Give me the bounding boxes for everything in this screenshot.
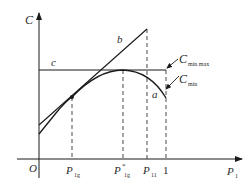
tick-p1g-star: P	[113, 164, 121, 176]
cmin-label: C	[179, 72, 188, 86]
x-axis-label-sub: 1	[235, 173, 238, 179]
line-c-label: c	[51, 56, 56, 68]
tick-one: 1	[163, 164, 169, 176]
y-axis-label: C	[25, 13, 34, 27]
tick-p1g: P	[65, 164, 73, 176]
capacity-diagram: C O c b a C min max C min P 1g P * 1g P …	[0, 0, 251, 187]
tangent-point	[70, 95, 74, 99]
tick-p11: P	[142, 164, 150, 176]
tick-p1g-star-sup: *	[122, 162, 126, 170]
cmin-max-subscript: min max	[188, 61, 209, 67]
arrow-cmin-max	[167, 59, 178, 68]
tick-p11-sub: 11	[151, 172, 157, 178]
tick-p1g-star-sub: 1g	[124, 172, 130, 178]
cmin-subscript: min	[188, 81, 197, 87]
line-b	[39, 29, 147, 125]
line-b-label: b	[117, 33, 123, 45]
curve-a-label: a	[152, 88, 158, 100]
x-axis-label: P	[226, 165, 234, 177]
tick-p1g-sub: 1g	[74, 172, 80, 178]
cmin-max-label: C	[179, 52, 188, 66]
origin-label: O	[29, 162, 37, 174]
arrow-cmin	[166, 76, 179, 89]
